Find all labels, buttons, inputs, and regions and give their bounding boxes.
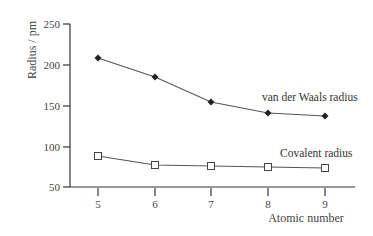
chart: 250 200 150 100 50 Radius / pm 5 6 7 8 9… (0, 0, 373, 236)
diamond-marker (95, 55, 102, 62)
x-tick-label: 9 (322, 198, 328, 210)
y-tick-labels: 250 200 150 100 50 (44, 18, 61, 193)
x-tick-labels: 5 6 7 8 9 (95, 198, 328, 210)
series-label-covalent: Covalent radius (280, 147, 353, 159)
diamond-marker (152, 74, 159, 81)
y-axis (63, 24, 70, 187)
x-tick-label: 7 (208, 198, 214, 210)
diamond-marker (265, 110, 272, 117)
x-axis (70, 187, 355, 196)
x-tick-label: 6 (152, 198, 158, 210)
diamond-marker (208, 99, 215, 106)
square-marker (152, 162, 159, 169)
y-tick-label: 100 (44, 141, 61, 153)
diamond-marker (322, 113, 329, 120)
series-van-der-waals: van der Waals radius (95, 55, 359, 120)
square-marker (95, 153, 102, 160)
y-tick-label: 250 (44, 18, 61, 30)
x-axis-title: Atomic number (268, 211, 344, 225)
square-marker (265, 164, 272, 171)
x-tick-label: 8 (265, 198, 271, 210)
square-marker (208, 163, 215, 170)
y-axis-title: Radius / pm (25, 20, 39, 79)
square-marker (322, 165, 329, 172)
series-label-van-der-waals: van der Waals radius (262, 91, 358, 103)
series-covalent: Covalent radius (95, 147, 354, 172)
y-tick-label: 200 (44, 59, 61, 71)
y-tick-label: 150 (44, 100, 61, 112)
x-tick-label: 5 (95, 198, 101, 210)
y-tick-label: 50 (49, 181, 61, 193)
